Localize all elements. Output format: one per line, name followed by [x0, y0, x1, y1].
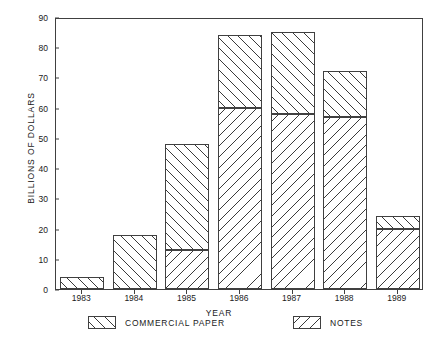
bar-1986	[218, 35, 262, 289]
x-tick-label: 1986	[230, 293, 249, 303]
x-tick-label: 1988	[335, 293, 354, 303]
x-tick-label: 1989	[387, 293, 406, 303]
bar-1988	[323, 71, 367, 289]
slash-hatch-swatch-icon	[88, 316, 116, 329]
y-tick-label: 90	[0, 13, 55, 23]
x-tick-label: 1987	[282, 293, 301, 303]
y-tick-mark	[55, 18, 59, 19]
bar-segment-notes-1989	[376, 229, 420, 289]
stacked-bar-chart: BILLIONS OF DOLLARS 0102030405060708090 …	[0, 0, 438, 343]
x-tick-mark	[344, 290, 345, 294]
legend-item-notes: NOTES	[293, 316, 363, 329]
bar-1989	[376, 216, 420, 289]
y-tick-mark	[55, 48, 59, 49]
bar-1983	[60, 277, 104, 289]
y-tick-label: 50	[0, 134, 55, 144]
bar-segment-commercial-paper-1985	[165, 144, 209, 250]
y-tick-label: 10	[0, 255, 55, 265]
bar-segment-commercial-paper-1986	[218, 35, 262, 108]
y-tick-mark	[55, 169, 59, 170]
bar-1984	[113, 235, 157, 289]
y-tick-label: 30	[0, 194, 55, 204]
bar-segment-commercial-paper-1983	[60, 277, 104, 289]
y-tick-label: 60	[0, 104, 55, 114]
y-tick-label: 80	[0, 43, 55, 53]
legend-label-commercial-paper: COMMERCIAL PAPER	[125, 318, 225, 328]
y-tick-label: 0	[0, 285, 55, 295]
legend-label-notes: NOTES	[330, 318, 363, 328]
x-tick-label: 1985	[177, 293, 196, 303]
bar-segment-notes-1985	[165, 250, 209, 289]
bar-1985	[165, 144, 209, 289]
y-tick-mark	[55, 259, 59, 260]
x-tick-label: 1983	[72, 293, 91, 303]
bar-segment-commercial-paper-1984	[113, 235, 157, 289]
x-tick-mark	[397, 290, 398, 294]
bar-segment-commercial-paper-1989	[376, 216, 420, 228]
bar-segment-notes-1986	[218, 108, 262, 289]
x-tick-mark	[186, 290, 187, 294]
x-tick-mark	[81, 290, 82, 294]
x-tick-mark	[134, 290, 135, 294]
backslash-hatch-swatch-icon	[293, 316, 321, 329]
x-tick-mark	[239, 290, 240, 294]
y-tick-mark	[55, 290, 59, 291]
y-tick-label: 70	[0, 73, 55, 83]
y-tick-mark	[55, 199, 59, 200]
y-tick-mark	[55, 138, 59, 139]
x-tick-label: 1984	[124, 293, 143, 303]
y-tick-label: 40	[0, 164, 55, 174]
bar-segment-notes-1987	[271, 114, 315, 289]
plot-area	[55, 18, 423, 290]
bar-segment-notes-1988	[323, 117, 367, 289]
bar-segment-commercial-paper-1987	[271, 32, 315, 114]
x-tick-mark	[292, 290, 293, 294]
bar-1987	[271, 32, 315, 289]
y-tick-mark	[55, 78, 59, 79]
y-tick-mark	[55, 108, 59, 109]
legend-item-commercial-paper: COMMERCIAL PAPER	[88, 316, 225, 329]
y-tick-mark	[55, 229, 59, 230]
y-tick-label: 20	[0, 225, 55, 235]
bar-segment-commercial-paper-1988	[323, 71, 367, 116]
